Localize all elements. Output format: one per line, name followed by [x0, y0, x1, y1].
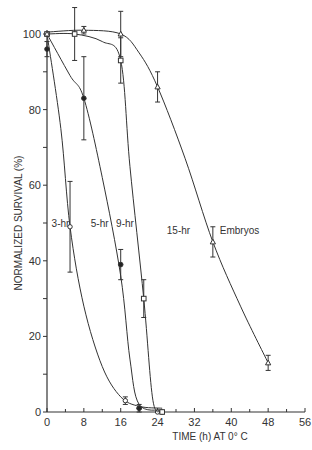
series-label-embryos: Embryos [220, 225, 259, 236]
series-label-9-hr: 9-hr [116, 218, 134, 229]
y-tick-label: 60 [29, 179, 41, 191]
x-tick-label: 8 [81, 416, 87, 428]
x-tick-label: 32 [188, 416, 200, 428]
data-point [118, 31, 123, 36]
y-tick-label: 80 [29, 104, 41, 116]
data-point [266, 360, 271, 365]
data-point [123, 398, 127, 402]
data-point [210, 239, 215, 244]
plot-area: 3-hr5-hr9-hr15-hrEmbryos [44, 8, 270, 415]
data-point [82, 96, 87, 101]
series-9-hr: 9-hr [45, 8, 165, 415]
y-axis-label: NORMALIZED SURVIVAL (%) [13, 156, 24, 291]
y-tick-label: 0 [35, 406, 41, 418]
data-point [118, 262, 123, 267]
y-tick-label: 20 [29, 330, 41, 342]
data-point [81, 27, 86, 32]
series-15-hr-embryos: 15-hrEmbryos [44, 11, 270, 370]
x-axis-label: TIME (h) AT 0° C [172, 431, 247, 442]
x-tick-label: 16 [115, 416, 127, 428]
x-tick-label: 24 [151, 416, 163, 428]
x-tick-label: 0 [44, 416, 50, 428]
series-label-5-hr: 5-hr [91, 218, 109, 229]
data-point [45, 47, 50, 52]
x-tick-label: 48 [262, 416, 274, 428]
x-tick-label: 56 [299, 416, 311, 428]
data-point [118, 58, 123, 63]
data-point [137, 406, 142, 411]
data-point [160, 410, 165, 415]
data-point [72, 32, 77, 37]
survival-chart: 08162432404856020406080100 3-hr5-hr9-hr1… [0, 0, 312, 450]
data-point [155, 84, 160, 89]
series-label-3-hr: 3-hr [52, 218, 70, 229]
y-tick-label: 100 [23, 28, 41, 40]
series-label-15-hr-embryos: 15-hr [167, 225, 191, 236]
x-tick-label: 40 [225, 416, 237, 428]
y-tick-label: 40 [29, 255, 41, 267]
data-point [141, 296, 146, 301]
